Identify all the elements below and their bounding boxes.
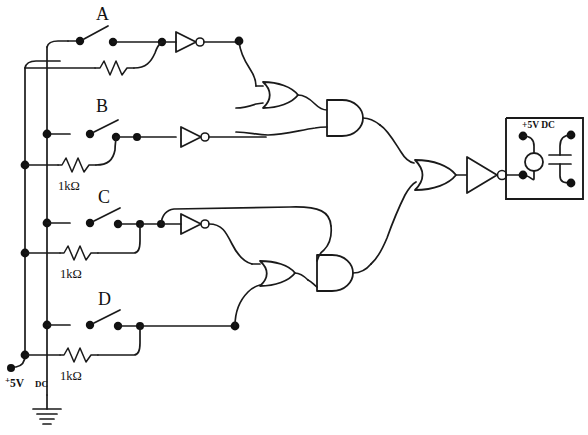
terminal-bottom-left[interactable] bbox=[519, 171, 528, 180]
input-label-d: D bbox=[98, 289, 111, 309]
switch-b-blade[interactable] bbox=[94, 120, 118, 132]
inverter-b-bubble bbox=[201, 133, 209, 141]
upper-and-gate bbox=[236, 100, 380, 136]
terminal-bottom-right[interactable] bbox=[567, 179, 576, 188]
final-or-gate bbox=[371, 125, 456, 264]
resistor-a bbox=[95, 61, 134, 75]
switch-a-left-node bbox=[76, 37, 84, 45]
lower-or-gate bbox=[235, 261, 308, 326]
input-row-b[interactable]: 1kΩ B bbox=[21, 96, 266, 193]
switch-c-left-node bbox=[86, 219, 94, 227]
resistor-b bbox=[58, 158, 96, 172]
inverter-a-bubble bbox=[196, 38, 204, 46]
inverter-c-bubble bbox=[201, 220, 209, 228]
output-inverter bbox=[456, 157, 524, 193]
inverter-c-body bbox=[181, 214, 201, 234]
supply-dc-label: DC bbox=[35, 379, 48, 389]
output-inverter-body bbox=[467, 157, 497, 193]
upper-or-gate bbox=[236, 41, 327, 110]
supply-terminal-node bbox=[7, 364, 15, 372]
output-module-supply-label: +5V DC bbox=[522, 120, 555, 130]
schematic-canvas: A 1kΩ B bbox=[0, 0, 588, 435]
supply-voltage-label: 5V bbox=[10, 377, 25, 389]
resistor-label-c: 1kΩ bbox=[60, 267, 82, 281]
input-row-d[interactable]: 1kΩ D bbox=[21, 289, 240, 383]
supply-label-group: + 5V DC bbox=[5, 375, 48, 389]
rail-node-b bbox=[43, 130, 52, 139]
switch-d-left-node bbox=[86, 321, 94, 329]
resistor-label-d: 1kΩ bbox=[60, 369, 82, 383]
power-rail-left bbox=[7, 41, 68, 395]
resistor-label-b: 1kΩ bbox=[58, 179, 80, 193]
input-label-b: B bbox=[96, 96, 108, 116]
switch-d-blade[interactable] bbox=[94, 310, 120, 323]
inverter-b-body bbox=[181, 127, 201, 147]
input-row-a[interactable]: A bbox=[25, 4, 243, 75]
input-label-a: A bbox=[96, 4, 109, 24]
resistor-d bbox=[60, 348, 98, 362]
circuit-schematic: A 1kΩ B bbox=[0, 0, 588, 435]
lower-and-gate bbox=[308, 226, 371, 291]
switch-b-left-node bbox=[86, 130, 94, 138]
lamp-indicator bbox=[525, 153, 543, 171]
output-module[interactable]: +5V DC bbox=[506, 118, 583, 199]
input-label-c: C bbox=[98, 187, 110, 207]
resistor-c bbox=[60, 246, 98, 260]
inverter-a-body bbox=[176, 32, 196, 52]
ground-symbol bbox=[33, 395, 61, 424]
switch-c-blade[interactable] bbox=[94, 208, 120, 221]
switch-a-blade[interactable] bbox=[84, 26, 108, 39]
